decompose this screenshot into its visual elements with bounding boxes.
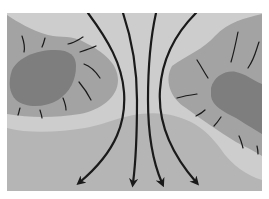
flow-diagram [0,0,269,199]
